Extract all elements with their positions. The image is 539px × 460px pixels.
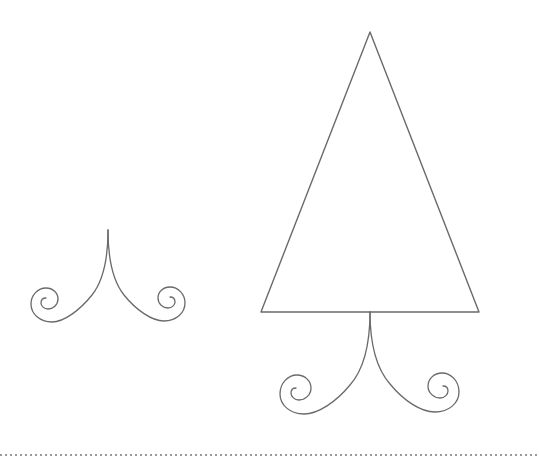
tree-flourish-left-arm [280,312,370,414]
drawing-canvas: Line drawing of two ornamental flourishe… [0,0,539,460]
ornament-illustration [0,0,539,460]
small-flourish-left-arm [31,230,108,322]
tree-flourish-right-arm [370,312,459,412]
small-flourish-ornament [31,230,185,322]
small-flourish-right-arm [108,230,185,321]
tree-triangle-canopy [261,32,479,312]
large-tree-ornament [261,32,479,414]
